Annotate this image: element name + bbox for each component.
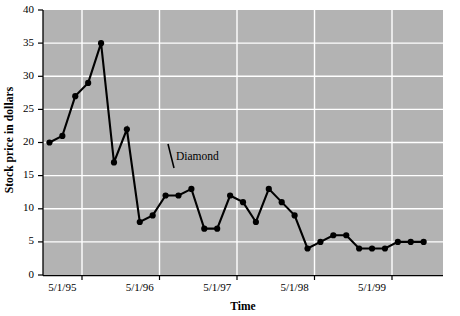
data-point: [227, 192, 233, 198]
data-point: [124, 126, 130, 132]
y-tick-label: 20: [0, 135, 34, 147]
data-point: [72, 93, 78, 99]
y-axis-ticks: [38, 10, 43, 275]
x-axis-ticks: [82, 276, 392, 280]
data-point: [175, 192, 181, 198]
data-point: [253, 219, 259, 225]
data-point: [188, 186, 194, 192]
x-axis-title: Time: [43, 296, 443, 314]
data-point: [111, 159, 117, 165]
y-tick-label: 10: [0, 201, 34, 213]
data-point: [85, 80, 91, 86]
data-point: [266, 186, 272, 192]
x-tick-label: 5/1/96: [105, 281, 175, 293]
data-point: [395, 239, 401, 245]
data-point: [137, 219, 143, 225]
chart-canvas: [0, 0, 460, 316]
x-tick-label: 5/1/95: [27, 281, 97, 293]
x-tick-label: 5/1/98: [260, 281, 330, 293]
annotation-diamond: Diamond: [176, 150, 219, 162]
data-point: [162, 192, 168, 198]
data-point: [421, 239, 427, 245]
data-point: [201, 226, 207, 232]
x-tick-label: 5/1/99: [337, 281, 407, 293]
y-tick-label: 15: [0, 168, 34, 180]
data-point: [369, 245, 375, 251]
y-tick-label: 40: [0, 3, 34, 15]
x-tick-label: 5/1/97: [182, 281, 252, 293]
y-tick-label: 5: [0, 234, 34, 246]
data-point: [356, 245, 362, 251]
data-point: [304, 245, 310, 251]
data-point: [240, 199, 246, 205]
data-point: [317, 239, 323, 245]
data-point: [330, 232, 336, 238]
data-point: [408, 239, 414, 245]
x-axis-title-text: Time: [230, 300, 255, 312]
y-tick-label: 35: [0, 36, 34, 48]
stock-price-line-chart: Stock price in dollars Time 051015202530…: [0, 0, 460, 316]
data-point: [150, 212, 156, 218]
y-tick-label: 0: [0, 268, 34, 280]
data-point: [46, 139, 52, 145]
data-point: [98, 40, 104, 46]
data-point: [214, 226, 220, 232]
data-point: [279, 199, 285, 205]
data-point: [292, 212, 298, 218]
y-tick-label: 30: [0, 69, 34, 81]
data-point: [59, 133, 65, 139]
data-point: [382, 245, 388, 251]
y-tick-label: 25: [0, 102, 34, 114]
data-point: [343, 232, 349, 238]
